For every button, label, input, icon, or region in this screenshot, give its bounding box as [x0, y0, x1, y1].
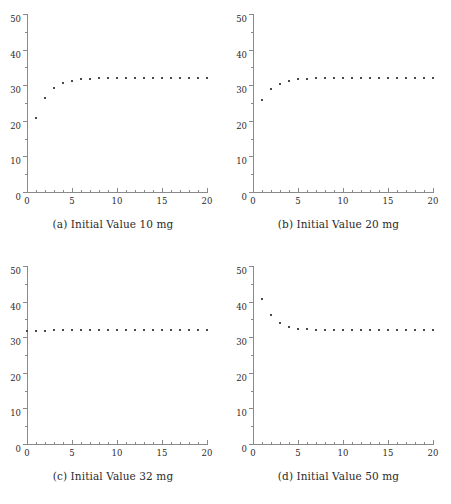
- scatter-point: [405, 77, 407, 79]
- x-tick-minor: [334, 190, 335, 193]
- x-tick-major: [72, 440, 73, 445]
- scatter-point: [261, 99, 263, 101]
- figure-panel-grid: 0102030405005101520 (a) Initial Value 10…: [0, 0, 451, 504]
- x-tick-major: [388, 440, 389, 445]
- scatter-point: [53, 329, 55, 331]
- x-tick-major: [253, 440, 254, 445]
- scatter-point: [414, 77, 416, 79]
- y-tick-major: [23, 337, 28, 338]
- scatter-point: [378, 329, 380, 331]
- x-tick-major: [253, 188, 254, 193]
- x-tick-minor: [316, 442, 317, 445]
- x-tick-minor: [262, 442, 263, 445]
- x-tick-minor: [198, 190, 199, 193]
- y-tick-minor: [25, 67, 28, 68]
- x-tick-minor: [271, 190, 272, 193]
- x-tick-minor: [63, 190, 64, 193]
- scatter-point: [98, 329, 100, 331]
- x-tick-minor: [415, 442, 416, 445]
- scatter-point: [423, 329, 425, 331]
- x-axis-tick-label: 20: [202, 197, 213, 206]
- plot-area-a: 0102030405005101520: [27, 15, 207, 193]
- scatter-point: [306, 78, 308, 80]
- scatter-point: [315, 329, 317, 331]
- x-tick-minor: [171, 442, 172, 445]
- x-tick-major: [117, 440, 118, 445]
- x-tick-minor: [280, 442, 281, 445]
- scatter-point: [369, 329, 371, 331]
- x-tick-minor: [397, 442, 398, 445]
- scatter-point: [134, 329, 136, 331]
- x-tick-minor: [352, 190, 353, 193]
- y-tick-major: [23, 373, 28, 374]
- scatter-point: [360, 77, 362, 79]
- scatter-point: [161, 77, 163, 79]
- scatter-point: [405, 329, 407, 331]
- x-tick-major: [207, 188, 208, 193]
- y-tick-minor: [25, 319, 28, 320]
- x-tick-minor: [361, 442, 362, 445]
- y-axis-line: [27, 15, 28, 193]
- y-tick-major: [249, 85, 254, 86]
- x-tick-minor: [54, 190, 55, 193]
- x-tick-minor: [370, 442, 371, 445]
- y-tick-minor: [25, 103, 28, 104]
- x-tick-minor: [126, 190, 127, 193]
- scatter-point: [116, 77, 118, 79]
- x-tick-minor: [81, 442, 82, 445]
- x-tick-major: [343, 440, 344, 445]
- x-tick-minor: [45, 190, 46, 193]
- y-tick-minor: [251, 67, 254, 68]
- y-tick-minor: [25, 426, 28, 427]
- scatter-point: [197, 77, 199, 79]
- x-axis-tick-label: 10: [338, 197, 349, 206]
- y-tick-major: [23, 121, 28, 122]
- scatter-point: [35, 330, 37, 332]
- x-tick-minor: [108, 442, 109, 445]
- x-tick-major: [298, 440, 299, 445]
- x-axis-tick-label: 0: [24, 449, 29, 458]
- scatter-point: [179, 329, 181, 331]
- x-axis-tick-label: 0: [250, 449, 255, 458]
- scatter-point: [170, 77, 172, 79]
- x-axis-tick-label: 0: [250, 197, 255, 206]
- x-axis-tick-label: 15: [157, 197, 168, 206]
- scatter-point: [342, 329, 344, 331]
- y-tick-major: [249, 337, 254, 338]
- x-tick-minor: [406, 190, 407, 193]
- scatter-point: [432, 329, 434, 331]
- x-tick-minor: [334, 442, 335, 445]
- scatter-point: [324, 77, 326, 79]
- x-tick-minor: [45, 442, 46, 445]
- x-tick-major: [433, 440, 434, 445]
- x-tick-major: [162, 440, 163, 445]
- x-axis-tick-label: 0: [24, 197, 29, 206]
- scatter-point: [71, 80, 73, 82]
- y-tick-major: [23, 50, 28, 51]
- scatter-point: [369, 77, 371, 79]
- scatter-point: [306, 328, 308, 330]
- scatter-point: [333, 77, 335, 79]
- scatter-point: [387, 329, 389, 331]
- y-tick-minor: [251, 103, 254, 104]
- x-axis-tick-label: 5: [295, 449, 300, 458]
- x-tick-minor: [99, 190, 100, 193]
- x-tick-minor: [307, 190, 308, 193]
- x-tick-major: [117, 188, 118, 193]
- scatter-point: [279, 83, 281, 85]
- y-tick-major: [23, 156, 28, 157]
- scatter-point: [197, 329, 199, 331]
- x-tick-minor: [307, 442, 308, 445]
- y-tick-major: [23, 14, 28, 15]
- y-tick-minor: [25, 355, 28, 356]
- scatter-point: [360, 329, 362, 331]
- scatter-point: [134, 77, 136, 79]
- panel-caption-a: (a) Initial Value 10 mg: [0, 218, 226, 230]
- x-tick-minor: [397, 190, 398, 193]
- x-tick-minor: [379, 190, 380, 193]
- x-tick-minor: [99, 442, 100, 445]
- y-tick-minor: [251, 284, 254, 285]
- y-tick-major: [23, 266, 28, 267]
- y-tick-major: [249, 373, 254, 374]
- y-tick-minor: [25, 391, 28, 392]
